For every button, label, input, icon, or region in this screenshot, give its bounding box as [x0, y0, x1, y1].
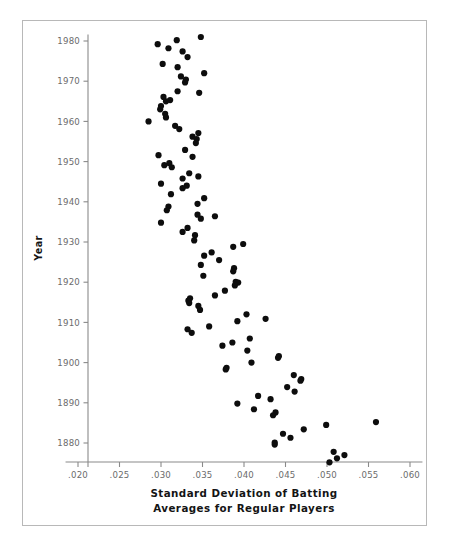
data-point: [155, 41, 161, 47]
data-point: [219, 343, 225, 349]
data-point: [192, 232, 198, 238]
data-point: [158, 220, 164, 226]
data-point: [175, 64, 181, 70]
x-axis-title-line1: Standard Deviation of Batting: [150, 487, 337, 499]
data-point: [175, 88, 181, 94]
data-point: [179, 48, 185, 54]
data-point: [272, 442, 278, 448]
data-point: [158, 181, 164, 187]
data-point: [196, 90, 202, 96]
x-tick-label: .040: [234, 470, 254, 480]
x-tick-label: .045: [276, 470, 296, 480]
data-point: [240, 241, 246, 247]
data-point: [179, 175, 185, 181]
data-point: [212, 213, 218, 219]
x-tick-label: .035: [193, 470, 213, 480]
data-point: [197, 307, 203, 313]
data-point: [184, 54, 190, 60]
y-tick-label: 1910: [57, 318, 80, 328]
data-point: [201, 195, 207, 201]
data-point: [168, 191, 174, 197]
data-point: [169, 164, 175, 170]
data-point: [334, 455, 340, 461]
data-point: [186, 170, 192, 176]
data-point: [145, 118, 151, 124]
data-point: [201, 253, 207, 259]
data-point: [284, 384, 290, 390]
data-point: [201, 70, 207, 76]
data-point: [194, 201, 200, 207]
data-point: [326, 459, 332, 465]
data-point: [182, 147, 188, 153]
plot-area: 1880189019001910192019301940195019601970…: [0, 0, 451, 546]
data-point: [193, 140, 199, 146]
data-point: [198, 34, 204, 40]
data-point: [373, 419, 379, 425]
scatter-chart: 1880189019001910192019301940195019601970…: [0, 0, 451, 546]
y-tick-label: 1920: [57, 277, 80, 287]
data-point: [200, 273, 206, 279]
x-tick-label: .055: [359, 470, 379, 480]
data-point: [291, 372, 297, 378]
data-point: [174, 37, 180, 43]
x-tick-label: .050: [317, 470, 337, 480]
data-point: [212, 292, 218, 298]
data-point: [179, 229, 185, 235]
data-point: [163, 98, 169, 104]
data-point: [195, 173, 201, 179]
data-point: [223, 366, 229, 372]
data-point: [179, 185, 185, 191]
data-point: [163, 114, 169, 120]
data-point: [198, 216, 204, 222]
data-point: [155, 152, 161, 158]
data-point: [229, 339, 235, 345]
x-tick-label: .060: [400, 470, 420, 480]
data-point: [176, 126, 182, 132]
data-point: [216, 257, 222, 263]
data-point: [287, 435, 293, 441]
data-point: [232, 282, 238, 288]
data-point: [234, 401, 240, 407]
ticks-group: 1880189019001910192019301940195019601970…: [57, 36, 420, 480]
data-point: [230, 244, 236, 250]
y-axis-title: Year: [33, 235, 44, 261]
data-point: [160, 61, 166, 67]
data-point: [165, 45, 171, 51]
data-point: [182, 79, 188, 85]
data-point: [297, 378, 303, 384]
data-point: [301, 426, 307, 432]
data-point: [270, 412, 276, 418]
data-point: [230, 268, 236, 274]
data-point: [189, 330, 195, 336]
data-point: [206, 323, 212, 329]
axes-group: [66, 35, 423, 468]
x-tick-label: .020: [68, 470, 88, 480]
data-points-group: [145, 34, 379, 466]
y-tick-label: 1900: [57, 358, 80, 368]
y-tick-label: 1930: [57, 237, 80, 247]
data-point: [244, 347, 250, 353]
data-point: [262, 316, 268, 322]
data-point: [341, 452, 347, 458]
data-point: [292, 388, 298, 394]
y-tick-label: 1890: [57, 398, 80, 408]
data-point: [157, 106, 163, 112]
y-tick-label: 1980: [57, 36, 80, 46]
data-point: [267, 396, 273, 402]
data-point: [247, 335, 253, 341]
y-tick-label: 1940: [57, 197, 80, 207]
data-point: [222, 288, 228, 294]
data-point: [248, 360, 254, 366]
data-point: [164, 207, 170, 213]
y-tick-label: 1950: [57, 157, 80, 167]
x-tick-label: .025: [110, 470, 130, 480]
data-point: [234, 318, 240, 324]
data-point: [195, 130, 201, 136]
data-point: [243, 311, 249, 317]
data-point: [189, 154, 195, 160]
data-point: [331, 449, 337, 455]
data-point: [198, 262, 204, 268]
data-point: [280, 431, 286, 437]
data-point: [191, 237, 197, 243]
data-point: [255, 393, 261, 399]
